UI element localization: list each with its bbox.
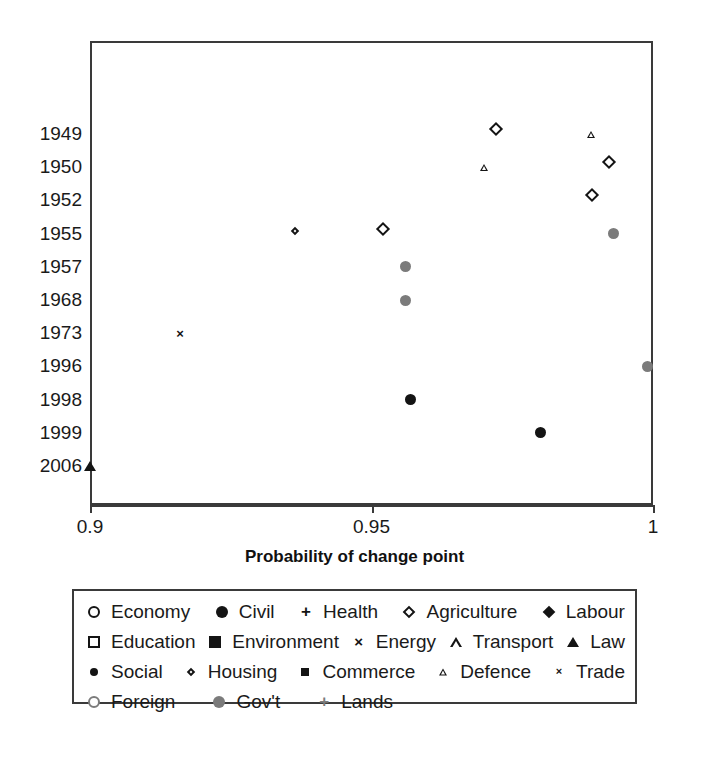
legend-box: EconomyCivil+HealthAgricultureLabourEduc…: [72, 589, 637, 704]
legend-label: Health: [323, 601, 378, 623]
legend-item-lands[interactable]: +Lands: [314, 691, 393, 713]
y-tick-label-1957: 1957: [40, 256, 82, 278]
legend-item-trade[interactable]: ×Trade: [549, 661, 625, 683]
data-point: [79, 455, 101, 477]
legend-label: Social: [111, 661, 163, 683]
y-tick-label-1973: 1973: [40, 322, 82, 344]
marker-holder: [580, 123, 602, 145]
legend-label: Defence: [460, 661, 531, 683]
legend-item-foreign[interactable]: Foreign: [84, 691, 175, 713]
legend-item-law[interactable]: Law: [563, 631, 625, 653]
legend-item-govt[interactable]: Gov't: [209, 691, 280, 713]
marker-holder: [79, 455, 101, 477]
data-point-layer: ×: [90, 41, 653, 505]
legend-item-economy[interactable]: Economy: [84, 601, 190, 623]
marker-holder: [287, 223, 309, 245]
plot-area: 1949195019521955195719681973199619981999…: [0, 0, 709, 560]
legend-item-energy[interactable]: ×Energy: [349, 631, 436, 653]
legend-label: Energy: [376, 631, 436, 653]
circle-open-icon: [84, 602, 104, 622]
data-point: [473, 156, 495, 178]
legend-item-transport[interactable]: Transport: [446, 631, 554, 653]
diamond-open-marker-icon: [585, 188, 599, 202]
legend-item-housing[interactable]: Housing: [181, 661, 278, 683]
data-point: [377, 223, 399, 245]
data-point: ×: [169, 322, 191, 344]
circle-fill-icon: [212, 602, 232, 622]
circle-gray-marker-icon: [642, 361, 653, 372]
legend-row-4: ForeignGov't+Lands: [84, 687, 625, 717]
x-tick-1: [653, 505, 655, 513]
y-tick-label-1999: 1999: [40, 422, 82, 444]
circle-gray-marker-icon: [400, 261, 411, 272]
legend-item-social[interactable]: Social: [84, 661, 163, 683]
legend-label: Education: [111, 631, 196, 653]
x-tick-label-0.9: 0.9: [77, 516, 103, 538]
x-tick-label-1: 1: [648, 516, 659, 538]
marker-holder: [394, 289, 416, 311]
plus-gray-icon: +: [314, 692, 334, 712]
legend-item-commerce[interactable]: Commerce: [295, 661, 415, 683]
legend-label: Transport: [473, 631, 554, 653]
x-small-icon: ×: [549, 662, 569, 682]
legend-item-labour[interactable]: Labour: [539, 601, 625, 623]
x-tick-label-0.95: 0.95: [353, 516, 390, 538]
y-tick-label-1949: 1949: [40, 123, 82, 145]
diamond-open-marker-icon: [602, 155, 616, 169]
legend-item-environment[interactable]: Environment: [205, 631, 339, 653]
circle-fill-marker-icon: [535, 427, 546, 438]
diamond-fill-icon: [539, 602, 559, 622]
triangle-open-icon: [446, 632, 466, 652]
diamond-open-small-icon: [181, 662, 201, 682]
marker-holder: ×: [169, 322, 191, 344]
legend-label: Trade: [576, 661, 625, 683]
square-fill-icon: [205, 632, 225, 652]
diamond-open-icon: [399, 602, 419, 622]
triangle-fill-marker-icon: [84, 461, 96, 471]
marker-holder: [377, 223, 399, 245]
data-point: [603, 223, 625, 245]
data-point: [287, 223, 309, 245]
legend-label: Law: [590, 631, 625, 653]
legend-label: Civil: [239, 601, 275, 623]
data-point: [636, 355, 658, 377]
y-tick-label-1952: 1952: [40, 189, 82, 211]
marker-holder: [490, 123, 512, 145]
x-tick-0.95: [372, 505, 374, 513]
circle-gray-marker-icon: [400, 295, 411, 306]
legend-label: Foreign: [111, 691, 175, 713]
legend-label: Housing: [208, 661, 278, 683]
legend-label: Commerce: [322, 661, 415, 683]
y-tick-label-1998: 1998: [40, 389, 82, 411]
legend-row-1: EconomyCivil+HealthAgricultureLabour: [84, 597, 625, 627]
legend-item-defence[interactable]: Defence: [433, 661, 531, 683]
marker-holder: [636, 355, 658, 377]
legend-label: Environment: [232, 631, 339, 653]
marker-holder: [603, 156, 625, 178]
data-point: [394, 256, 416, 278]
marker-holder: [394, 256, 416, 278]
triangle-fill-icon: [563, 632, 583, 652]
data-point: [529, 422, 551, 444]
legend-label: Gov't: [236, 691, 280, 713]
legend-item-education[interactable]: Education: [84, 631, 196, 653]
circle-fill-marker-icon: [405, 394, 416, 405]
legend-item-civil[interactable]: Civil: [212, 601, 275, 623]
plus-icon: +: [296, 602, 316, 622]
data-point: [603, 156, 625, 178]
marker-holder: [473, 156, 495, 178]
data-point: [586, 189, 608, 211]
circle-fill-small-icon: [84, 662, 104, 682]
legend-item-agriculture[interactable]: Agriculture: [399, 601, 517, 623]
legend-label: Economy: [111, 601, 190, 623]
y-tick-label-1996: 1996: [40, 355, 82, 377]
x-tick-0.9: [90, 505, 92, 513]
data-point: [394, 289, 416, 311]
y-tick-label-1950: 1950: [40, 156, 82, 178]
legend-label: Labour: [566, 601, 625, 623]
triangle-open-small-icon: [433, 662, 453, 682]
x-axis-title: Probability of change point: [0, 547, 709, 567]
legend-item-health[interactable]: +Health: [296, 601, 378, 623]
data-point: [580, 123, 602, 145]
x-icon: ×: [349, 632, 369, 652]
